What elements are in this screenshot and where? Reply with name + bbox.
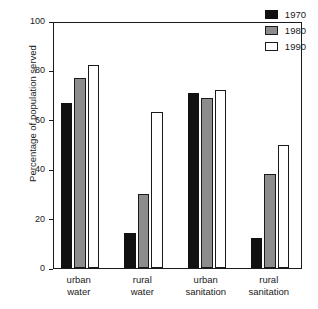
bar-rural-water-1990 [151,112,163,268]
bar-chart: 020406080100 Percentage of population se… [0,0,318,309]
y-axis-title: Percentage of population served [27,14,38,214]
legend-swatch-icon-1970 [265,10,278,19]
y-axis-tick-mark [49,170,53,171]
y-axis-tick-mark [49,71,53,72]
x-axis-group-label-line: rural [224,274,314,286]
legend-label-1990: 1990 [285,42,306,52]
bar-urban-sanitation-1970 [188,93,200,268]
bar-urban-water-1990 [88,65,100,268]
legend-item-1970: 1970 [265,8,306,21]
bar-rural-sanitation-1970 [251,238,263,268]
y-axis-tick-mark [49,22,53,23]
y-axis-tick-label: 0 [15,264,45,273]
bar-urban-sanitation-1980 [201,98,213,268]
bar-urban-water-1980 [74,78,86,268]
legend-label-1980: 1980 [285,26,306,36]
legend-item-1980: 1980 [265,24,306,37]
y-axis-tick-mark [49,219,53,220]
bar-rural-water-1970 [124,233,136,268]
legend-item-1990: 1990 [265,40,306,53]
y-axis-tick-mark [49,120,53,121]
legend-label-1970: 1970 [285,10,306,20]
legend: 1970 1980 1990 [265,8,306,56]
y-axis-tick-mark [49,269,53,270]
bar-rural-sanitation-1980 [264,174,276,268]
plot-area [53,22,302,269]
bar-rural-water-1980 [138,194,150,268]
bar-urban-sanitation-1990 [215,90,227,268]
y-axis-tick-label: 20 [15,215,45,224]
bar-urban-water-1970 [61,103,73,268]
x-axis-group-label-line: sanitation [224,286,314,298]
x-axis-group-label: ruralsanitation [224,274,314,297]
legend-swatch-icon-1980 [265,26,278,35]
bar-rural-sanitation-1990 [278,145,290,269]
legend-swatch-icon-1990 [265,42,278,51]
